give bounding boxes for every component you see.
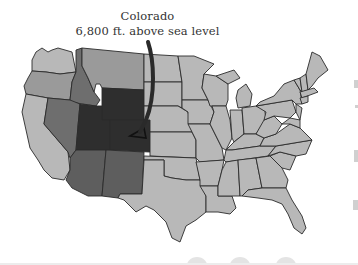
state-florida: [242, 188, 306, 234]
state-new-york: [256, 80, 302, 106]
state-arizona: [66, 150, 106, 196]
decorative-circles: [0, 257, 358, 265]
state-montana: [82, 48, 144, 92]
state-kansas: [150, 132, 196, 158]
state-new-mexico: [102, 150, 144, 198]
state-washington: [32, 48, 76, 74]
us-map: [0, 0, 358, 265]
right-edge-marks: [353, 80, 358, 210]
state-new-jersey: [296, 104, 302, 120]
state-maine: [306, 52, 328, 90]
states: [22, 48, 328, 242]
state-wyoming: [102, 88, 144, 120]
